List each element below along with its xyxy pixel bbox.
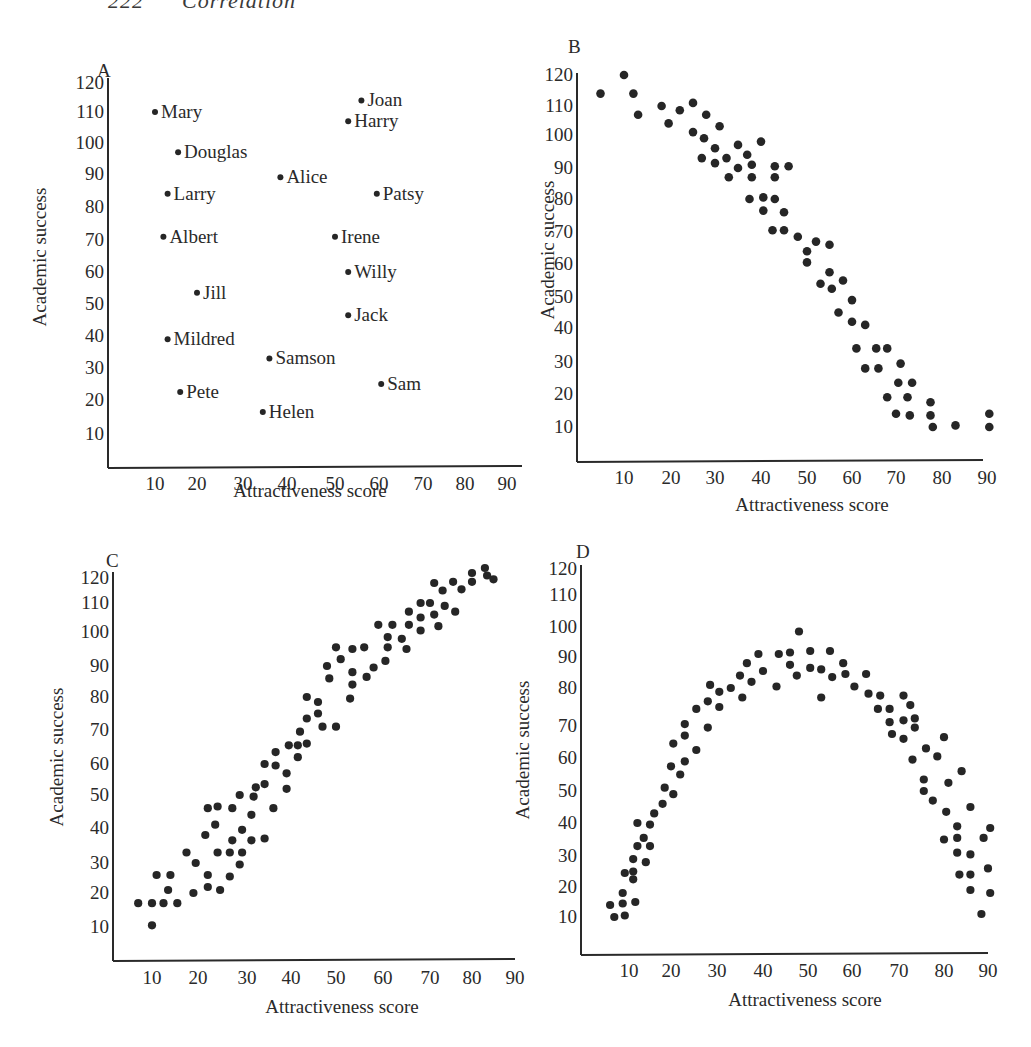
- data-point: [216, 886, 224, 894]
- data-point: [236, 860, 244, 868]
- x-tick-label: 60: [837, 468, 867, 487]
- data-point: [285, 741, 293, 749]
- y-tick-label: 110: [65, 593, 109, 612]
- x-tick-label: 90: [492, 474, 522, 493]
- data-point: [942, 808, 950, 816]
- data-point: [722, 154, 731, 163]
- data-point: [346, 695, 354, 703]
- figure-canvas: [0, 0, 1031, 1047]
- y-tick-label: 50: [533, 781, 577, 800]
- point-label: Mildred: [174, 329, 235, 348]
- data-point: [260, 409, 266, 415]
- data-point: [826, 647, 834, 655]
- data-point: [434, 622, 442, 630]
- y-tick-label: 60: [533, 748, 577, 767]
- data-point: [929, 423, 938, 432]
- data-point: [700, 134, 709, 143]
- data-point: [944, 779, 952, 787]
- data-point: [953, 834, 961, 842]
- data-point: [294, 753, 302, 761]
- x-axis-title: Attractiveness score: [735, 494, 889, 516]
- x-tick-label: 20: [656, 468, 686, 487]
- data-point: [725, 173, 734, 182]
- data-point: [711, 159, 720, 168]
- data-point: [839, 276, 848, 285]
- data-point: [661, 784, 669, 792]
- point-label: Pete: [186, 382, 219, 401]
- data-point: [825, 241, 834, 250]
- data-point: [381, 657, 389, 665]
- data-point: [417, 599, 425, 607]
- y-tick-label: 90: [60, 164, 104, 183]
- y-tick-label: 50: [529, 287, 573, 306]
- x-tick-label: 70: [884, 961, 914, 980]
- y-tick-label: 30: [533, 846, 577, 865]
- y-tick-label: 90: [65, 656, 109, 675]
- x-tick-label: 60: [368, 968, 398, 987]
- data-point: [451, 608, 459, 616]
- data-point: [634, 110, 643, 119]
- y-tick-label: 40: [533, 813, 577, 832]
- y-tick-label: 70: [60, 230, 104, 249]
- data-point: [303, 740, 311, 748]
- data-point: [370, 663, 378, 671]
- data-point: [160, 234, 166, 240]
- x-tick-label: 20: [656, 961, 686, 980]
- data-point: [345, 118, 351, 124]
- data-point: [920, 775, 928, 783]
- data-point: [629, 867, 637, 875]
- data-point: [134, 899, 142, 907]
- data-point: [449, 578, 457, 586]
- point-label: Jill: [203, 283, 226, 302]
- data-point: [861, 364, 870, 373]
- data-point: [269, 804, 277, 812]
- y-tick-label: 60: [65, 754, 109, 773]
- data-point: [775, 650, 783, 658]
- point-label: Douglas: [184, 142, 247, 161]
- data-point: [650, 809, 658, 817]
- y-tick-label: 100: [60, 133, 104, 152]
- data-point: [261, 780, 269, 788]
- data-point: [704, 697, 712, 705]
- data-point: [669, 740, 677, 748]
- y-tick-label: 60: [60, 262, 104, 281]
- x-tick-label: 80: [450, 474, 480, 493]
- data-point: [348, 668, 356, 676]
- data-point: [272, 748, 280, 756]
- y-tick-label: 40: [529, 318, 573, 337]
- y-tick-label: 40: [60, 326, 104, 345]
- data-point: [468, 578, 476, 586]
- data-point: [189, 889, 197, 897]
- data-point: [852, 344, 861, 353]
- data-point: [214, 802, 222, 810]
- data-point: [715, 688, 723, 696]
- data-point: [747, 678, 755, 686]
- data-point: [864, 690, 872, 698]
- data-point: [888, 730, 896, 738]
- data-point: [646, 821, 654, 829]
- data-point: [620, 71, 629, 80]
- y-tick-label: 120: [65, 568, 109, 587]
- data-point: [261, 834, 269, 842]
- x-tick-label: 40: [748, 961, 778, 980]
- data-point: [441, 602, 449, 610]
- data-point: [689, 128, 698, 137]
- point-label: Irene: [341, 227, 380, 246]
- data-point: [748, 173, 757, 182]
- data-point: [619, 889, 627, 897]
- data-point: [606, 901, 614, 909]
- data-point: [211, 821, 219, 829]
- data-point: [793, 672, 801, 680]
- data-point: [958, 767, 966, 775]
- x-tick-label: 90: [500, 968, 530, 987]
- y-tick-label: 110: [533, 585, 577, 604]
- data-point: [489, 575, 497, 583]
- data-point: [715, 703, 723, 711]
- point-label: Alice: [286, 167, 327, 186]
- data-point: [152, 109, 158, 115]
- data-point: [803, 258, 812, 267]
- y-tick-label: 50: [60, 294, 104, 313]
- data-point: [283, 769, 291, 777]
- point-label: Harry: [354, 111, 398, 130]
- data-point: [175, 149, 181, 155]
